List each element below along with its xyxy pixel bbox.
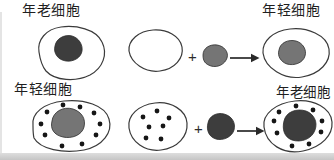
granule-dot xyxy=(39,122,44,127)
source-old-cell-drawing xyxy=(39,27,105,80)
granule-dot xyxy=(290,144,295,149)
page-scan-bottom-shadow xyxy=(0,153,334,160)
granule-dot xyxy=(60,144,65,149)
granule-dot xyxy=(294,104,299,109)
granule-dot xyxy=(144,136,149,141)
granule-dot xyxy=(94,133,99,138)
granule-dot xyxy=(147,125,152,130)
granule-dot xyxy=(61,103,66,108)
granule-dot xyxy=(155,109,160,114)
arrow-icon xyxy=(230,54,260,62)
granule-dot xyxy=(272,119,277,124)
granule-dot xyxy=(141,115,146,120)
result-old-cell-drawing xyxy=(264,101,332,152)
cell-aging-diagram: 年老细胞 年轻细胞 年轻细胞 年老细胞 + + xyxy=(0,0,334,160)
granule-dot xyxy=(277,110,282,115)
enucleated-old-cytoplasm-drawing xyxy=(129,30,182,71)
granule-dot xyxy=(80,142,85,147)
diagram-canvas xyxy=(0,0,334,160)
young-nucleus xyxy=(278,40,305,64)
granule-dot xyxy=(45,110,50,115)
granule-dot xyxy=(159,137,164,142)
granule-dot xyxy=(43,133,48,138)
granule-dot xyxy=(311,108,316,113)
result-young-cell-drawing xyxy=(263,29,329,78)
granule-dot xyxy=(98,122,103,127)
arrow-icon xyxy=(237,127,265,135)
granule-dot xyxy=(275,131,280,136)
granule-dot xyxy=(78,105,83,110)
granule-dot xyxy=(320,119,325,124)
old-nucleus xyxy=(283,110,316,141)
old-nucleus xyxy=(55,36,83,62)
granule-dot xyxy=(319,130,324,135)
granule-dot xyxy=(92,111,97,116)
source-young-cell-drawing xyxy=(33,101,110,152)
young-nucleus-added xyxy=(203,45,227,67)
granule-dot xyxy=(167,116,172,121)
granule-dot xyxy=(307,142,312,147)
experiment-row-top xyxy=(39,27,330,80)
experiment-row-bottom xyxy=(33,101,332,152)
old-nucleus-added xyxy=(207,113,234,139)
enucleated-young-cytoplasm-drawing xyxy=(129,103,187,151)
young-nucleus xyxy=(51,108,84,137)
page-scan-left-edge xyxy=(0,12,2,160)
cell-membrane xyxy=(129,30,182,71)
granule-dot xyxy=(161,124,166,129)
